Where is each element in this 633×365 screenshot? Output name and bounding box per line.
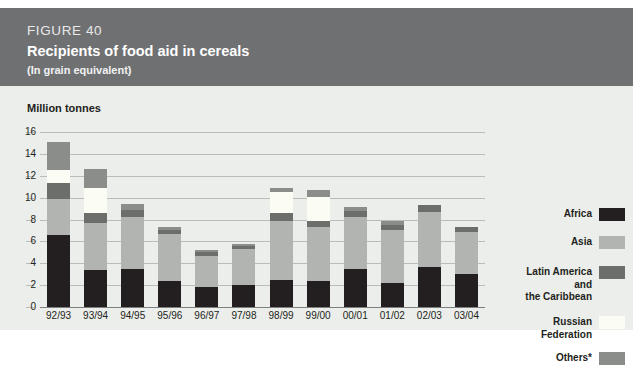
bar-group[interactable] (270, 132, 293, 307)
bar-group[interactable] (381, 132, 404, 307)
y-tick-label: 8 (14, 214, 36, 225)
bar-segment-others[interactable] (121, 204, 144, 209)
bar-segment-asia[interactable] (121, 217, 144, 268)
bar-segment-latin-america[interactable] (47, 183, 70, 198)
bar-segment-latin-america[interactable] (455, 227, 478, 231)
bar-segment-africa[interactable] (195, 287, 218, 307)
bar-segment-asia[interactable] (84, 223, 107, 270)
bar-segment-latin-america[interactable] (121, 210, 144, 218)
bar-group[interactable] (344, 132, 367, 307)
figure-header-band: FIGURE 40 Recipients of food aid in cere… (0, 8, 633, 86)
bar-group[interactable] (307, 132, 330, 307)
bar-segment-africa[interactable] (232, 285, 255, 307)
bar-group[interactable] (195, 132, 218, 307)
y-axis-unit-label: Million tonnes (27, 102, 101, 114)
bar-segment-africa[interactable] (47, 235, 70, 307)
bar-segment-africa[interactable] (307, 281, 330, 307)
bar-segment-africa[interactable] (381, 283, 404, 307)
y-tick-label: 14 (14, 148, 36, 159)
x-tick-label: 03/04 (446, 310, 486, 321)
bar-segment-others[interactable] (270, 188, 293, 192)
y-axis-ticks: 0246810121416 (0, 132, 36, 307)
x-tick-label: 94/95 (113, 310, 153, 321)
figure-title: Recipients of food aid in cereals (27, 41, 587, 61)
bar-segment-latin-america[interactable] (307, 221, 330, 228)
bar-segment-latin-america[interactable] (418, 205, 441, 212)
bars-layer (40, 132, 485, 307)
bar-group[interactable] (121, 132, 144, 307)
bar-segment-africa[interactable] (270, 280, 293, 307)
bar-segment-latin-america[interactable] (195, 252, 218, 255)
bar-segment-asia[interactable] (195, 256, 218, 288)
bar-segment-asia[interactable] (418, 212, 441, 267)
legend-label: Asia (571, 236, 599, 249)
bar-segment-asia[interactable] (270, 221, 293, 280)
x-tick-label: 01/02 (372, 310, 412, 321)
y-tick-label: 4 (14, 257, 36, 268)
x-tick-label: 00/01 (335, 310, 375, 321)
bar-group[interactable] (232, 132, 255, 307)
bar-group[interactable] (158, 132, 181, 307)
bar-segment-africa[interactable] (158, 281, 181, 307)
legend-swatch-russian-federation (599, 316, 625, 329)
figure-number: FIGURE 40 (27, 22, 587, 40)
bar-segment-africa[interactable] (418, 267, 441, 307)
bar-segment-africa[interactable] (455, 274, 478, 307)
bar-segment-asia[interactable] (381, 230, 404, 283)
legend-item[interactable]: Others* (497, 352, 625, 365)
legend-item[interactable]: Africa (497, 208, 625, 221)
bar-segment-asia[interactable] (232, 249, 255, 285)
plot-area (40, 132, 485, 307)
bar-segment-africa[interactable] (344, 269, 367, 307)
chart-body: Million tonnes 0246810121416 92/9393/949… (0, 86, 633, 330)
y-tick-label: 6 (14, 235, 36, 246)
y-tick-label: 10 (14, 192, 36, 203)
bar-segment-africa[interactable] (84, 270, 107, 307)
bar-group[interactable] (84, 132, 107, 307)
x-tick-label: 99/00 (298, 310, 338, 321)
bar-segment-latin-america[interactable] (84, 213, 107, 223)
bar-group[interactable] (418, 132, 441, 307)
x-tick-label: 02/03 (409, 310, 449, 321)
bar-segment-asia[interactable] (158, 234, 181, 281)
legend-swatch-asia (599, 236, 625, 249)
x-tick-label: 95/96 (150, 310, 190, 321)
x-tick-label: 93/94 (76, 310, 116, 321)
bar-segment-latin-america[interactable] (158, 230, 181, 233)
bar-segment-others[interactable] (307, 190, 330, 197)
bar-segment-russian-federation[interactable] (307, 197, 330, 221)
legend-item[interactable]: Latin America and the Caribbean (497, 266, 625, 304)
bar-segment-latin-america[interactable] (232, 246, 255, 249)
x-axis-baseline (40, 307, 485, 308)
bar-segment-latin-america[interactable] (270, 213, 293, 221)
bar-segment-others[interactable] (47, 142, 70, 170)
bar-segment-latin-america[interactable] (344, 211, 367, 218)
bar-segment-asia[interactable] (344, 217, 367, 268)
bar-segment-asia[interactable] (455, 232, 478, 275)
bar-segment-others[interactable] (232, 244, 255, 246)
legend-swatch-latin-america (599, 266, 625, 279)
bar-segment-latin-america[interactable] (381, 225, 404, 230)
y-tick-label: 16 (14, 126, 36, 137)
x-tick-label: 97/98 (224, 310, 264, 321)
bar-segment-others[interactable] (84, 169, 107, 188)
bar-segment-africa[interactable] (121, 269, 144, 307)
bar-segment-russian-federation[interactable] (47, 170, 70, 183)
bar-segment-others[interactable] (158, 227, 181, 230)
bar-segment-others[interactable] (381, 221, 404, 225)
bar-segment-russian-federation[interactable] (84, 188, 107, 213)
bar-segment-others[interactable] (195, 250, 218, 252)
bar-segment-russian-federation[interactable] (270, 192, 293, 213)
y-tick-label: 12 (14, 170, 36, 181)
legend-item[interactable]: Russian Federation (497, 316, 625, 341)
y-tick-label: 2 (14, 279, 36, 290)
legend-item[interactable]: Asia (497, 236, 625, 249)
bar-segment-asia[interactable] (307, 227, 330, 281)
x-axis-labels: 92/9393/9494/9595/9696/9797/9898/9999/00… (40, 310, 485, 328)
bar-group[interactable] (455, 132, 478, 307)
bar-group[interactable] (47, 132, 70, 307)
legend-swatch-africa (599, 208, 625, 221)
bar-segment-asia[interactable] (47, 199, 70, 235)
bar-segment-others[interactable] (344, 207, 367, 210)
